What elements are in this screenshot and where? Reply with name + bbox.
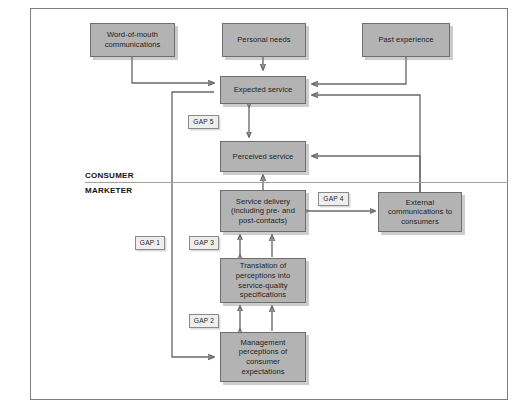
gap-label-5-text: GAP 5 bbox=[193, 119, 213, 126]
gap-label-2-text: GAP 2 bbox=[194, 318, 214, 325]
gap-label-3: GAP 3 bbox=[189, 236, 219, 250]
gap-label-2: GAP 2 bbox=[189, 314, 219, 328]
box-management-perceptions-label: Management perceptions of consumer expec… bbox=[224, 338, 302, 376]
box-external-communications-label: External communications to consumers bbox=[382, 198, 458, 227]
diagram-canvas: Word-of-mouth communications Personal ne… bbox=[0, 0, 532, 418]
box-perceived-service[interactable]: Perceived service bbox=[220, 141, 306, 172]
box-word-of-mouth-label: Word-of-mouth communications bbox=[94, 30, 171, 49]
segment-label-marketer: MARKETER bbox=[85, 186, 132, 195]
box-expected-service-label: Expected service bbox=[224, 85, 302, 95]
box-perceived-service-label: Perceived service bbox=[224, 152, 302, 162]
segment-label-consumer: CONSUMER bbox=[85, 171, 134, 180]
box-personal-needs[interactable]: Personal needs bbox=[222, 23, 306, 57]
box-expected-service[interactable]: Expected service bbox=[220, 76, 306, 104]
gap-label-5: GAP 5 bbox=[188, 115, 219, 129]
box-translation-label: Translation of perceptions into service-… bbox=[224, 261, 302, 299]
box-personal-needs-label: Personal needs bbox=[226, 35, 302, 45]
box-service-delivery[interactable]: Service delivery (including pre- and pos… bbox=[220, 190, 306, 232]
box-translation[interactable]: Translation of perceptions into service-… bbox=[220, 258, 306, 303]
box-management-perceptions[interactable]: Management perceptions of consumer expec… bbox=[220, 332, 306, 382]
gap-label-4-text: GAP 4 bbox=[323, 196, 343, 203]
gap-label-1: GAP 1 bbox=[135, 236, 165, 250]
box-external-communications[interactable]: External communications to consumers bbox=[378, 192, 462, 232]
gap-label-1-text: GAP 1 bbox=[140, 240, 160, 247]
gap-label-4: GAP 4 bbox=[318, 192, 349, 206]
box-word-of-mouth[interactable]: Word-of-mouth communications bbox=[90, 23, 175, 57]
gap-label-3-text: GAP 3 bbox=[194, 240, 214, 247]
box-service-delivery-label: Service delivery (including pre- and pos… bbox=[224, 197, 302, 226]
box-past-experience[interactable]: Past experience bbox=[362, 23, 450, 57]
consumer-marketer-divider bbox=[85, 182, 508, 183]
box-past-experience-label: Past experience bbox=[366, 35, 446, 45]
